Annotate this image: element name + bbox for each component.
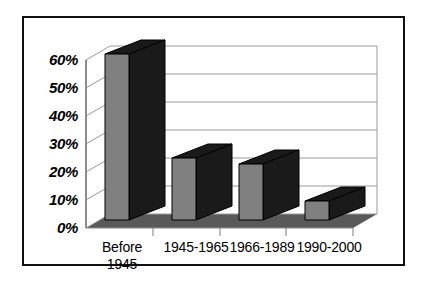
x-label-1945-1965: 1945-1965 xyxy=(158,239,234,256)
x-axis-category-labels: Before 1945 1945-1965 1966-1989 1990-200… xyxy=(24,18,407,268)
x-label-1966-1989: 1966-1989 xyxy=(224,239,300,256)
x-label-1990-2000: 1990-2000 xyxy=(291,239,367,256)
chart-frame: 60% 50% 40% 30% 20% 10% 0% Before 1945 1… xyxy=(22,16,405,266)
x-label-before-1945: Before 1945 xyxy=(87,239,157,273)
chart-plot-area: 60% 50% 40% 30% 20% 10% 0% Before 1945 1… xyxy=(24,18,407,268)
